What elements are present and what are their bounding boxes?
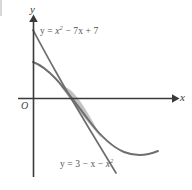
y-axis-label: y — [30, 4, 35, 15]
x-axis-arrow — [172, 94, 180, 103]
curve-parabola-upward — [33, 62, 158, 155]
curve-label-prefix: y = 3 − x − — [60, 159, 106, 169]
curve-label-parabola-upward: y = x2 − 7x + 7 — [40, 27, 98, 37]
curve-label-prefix: y = — [40, 26, 55, 36]
origin-label: O — [21, 101, 28, 111]
x-axis-label: x — [180, 92, 185, 103]
graph-figure: y x O y = x2 − 7x + 7 y = 3 − x − x2 — [0, 0, 192, 190]
curve-label-parabola-downward: y = 3 − x − x2 — [60, 160, 113, 170]
y-axis-arrow — [29, 15, 38, 23]
shaded-region — [61, 86, 102, 138]
curve-label-exponent: 2 — [110, 157, 113, 164]
curve-label-tail: − 7x + 7 — [63, 26, 98, 36]
